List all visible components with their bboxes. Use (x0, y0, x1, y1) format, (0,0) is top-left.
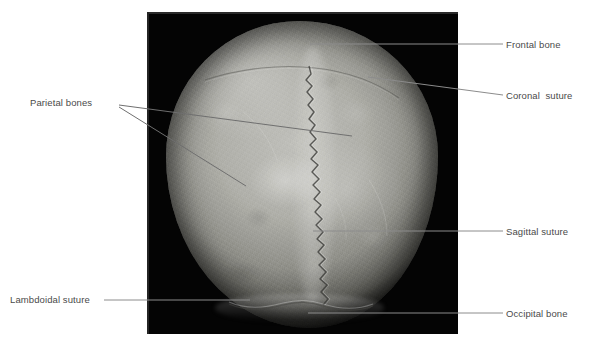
label-frontal-bone: Frontal bone (506, 39, 561, 50)
sagittal-crest-highlight (291, 46, 335, 304)
label-lambdoidal-suture: Lambdoidal suture (10, 294, 90, 305)
cranium-specimen (166, 21, 438, 328)
panel-edge-highlight-left (147, 12, 149, 334)
specimen-photograph-panel (147, 12, 458, 334)
label-parietal-bones: Parietal bones (30, 97, 92, 108)
label-sagittal-suture: Sagittal suture (506, 226, 568, 237)
occipital-margin-highlight (215, 294, 384, 322)
panel-edge-highlight-top (147, 12, 458, 14)
figure-skull-superior-view: Frontal bone Coronal suture Sagittal sut… (0, 0, 591, 345)
label-coronal-suture: Coronal suture (506, 90, 572, 101)
label-occipital-bone: Occipital bone (506, 308, 568, 319)
